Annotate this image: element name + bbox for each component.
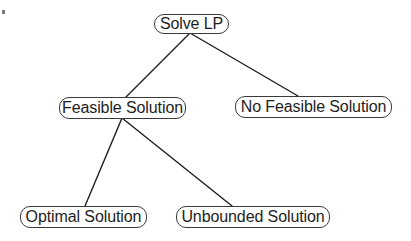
- node-solve-lp: Solve LP: [154, 14, 229, 34]
- node-optimal-solution: Optimal Solution: [20, 206, 147, 228]
- node-label: Solve LP: [160, 16, 223, 32]
- tree-edges: [0, 0, 411, 241]
- lp-solution-tree-diagram: Solve LP Feasible Solution No Feasible S…: [0, 0, 411, 241]
- node-unbounded-solution: Unbounded Solution: [176, 206, 330, 228]
- node-label: No Feasible Solution: [241, 99, 387, 115]
- edge-solve-lp-to-feasible: [126, 33, 190, 97]
- edge-feasible-to-unbounded: [122, 118, 232, 206]
- node-label: Feasible Solution: [62, 100, 183, 116]
- edge-solve-lp-to-no-feasible: [190, 33, 298, 96]
- node-label: Unbounded Solution: [181, 209, 324, 225]
- edge-feasible-to-optimal: [85, 118, 122, 206]
- node-feasible-solution: Feasible Solution: [59, 97, 186, 119]
- node-label: Optimal Solution: [26, 209, 142, 225]
- node-no-feasible-solution: No Feasible Solution: [235, 96, 392, 118]
